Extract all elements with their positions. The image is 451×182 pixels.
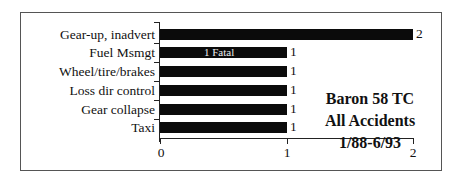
category-label: Taxi [131, 121, 155, 135]
y-tick [154, 22, 160, 23]
bar-gear-collapse [160, 104, 287, 115]
y-tick [154, 62, 160, 63]
category-label: Loss dir control [70, 84, 156, 98]
bar-fuel-msmgt: 1 Fatal [160, 47, 287, 58]
value-label: 1 [290, 64, 297, 78]
bar-loss-dir-control [160, 85, 287, 96]
value-label: 1 [290, 83, 297, 97]
y-tick [154, 81, 160, 82]
annotation-line: 1/88-6/93 [300, 132, 440, 154]
value-label: 1 [290, 45, 297, 59]
y-tick [154, 100, 160, 101]
y-tick [154, 119, 160, 120]
bar-annotation: 1 Fatal [204, 47, 234, 58]
value-label: 2 [416, 27, 423, 41]
category-label: Fuel Msmgt [89, 46, 155, 60]
chart-annotation: Baron 58 TC All Accidents 1/88-6/93 [300, 88, 440, 154]
annotation-line: Baron 58 TC [300, 88, 440, 110]
value-label: 1 [290, 102, 297, 116]
x-tick-label: 1 [284, 146, 291, 160]
category-label: Gear collapse [81, 103, 155, 117]
bar-wheel-tire-brakes [160, 66, 287, 77]
annotation-line: All Accidents [300, 110, 440, 132]
bar-gear-up [160, 29, 413, 40]
x-tick [160, 138, 161, 144]
category-label: Wheel/tire/brakes [59, 65, 155, 79]
x-tick-label: 0 [158, 146, 165, 160]
bar-taxi [160, 122, 287, 133]
category-label: Gear-up, inadvert [60, 28, 155, 42]
value-label: 1 [290, 120, 297, 134]
y-tick [154, 43, 160, 44]
x-tick [287, 138, 288, 144]
